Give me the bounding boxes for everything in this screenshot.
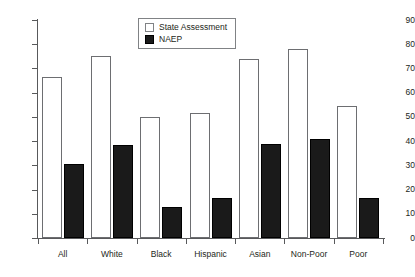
y-axis-tick-label: 50 [389, 112, 415, 121]
x-axis-label-black: Black [137, 249, 186, 259]
bar-poor-naep [359, 198, 379, 238]
bar-hispanic-state-assessment [190, 113, 210, 238]
y-axis-tick [32, 117, 37, 118]
legend-item-state: State Assessment [145, 23, 227, 32]
x-axis-tick [383, 239, 384, 244]
y-axis-tick-label: 70 [389, 64, 415, 73]
bar-chart: 0102030405060708090 AllWhiteBlackHispani… [0, 0, 415, 277]
y-axis-tick-label: 40 [389, 137, 415, 146]
y-axis-tick-label: 90 [389, 16, 415, 25]
x-axis-tick [284, 239, 285, 244]
legend-label: State Assessment [159, 23, 227, 32]
y-axis-tick-label: 80 [389, 40, 415, 49]
legend-label: NAEP [159, 35, 182, 44]
x-axis-label-all: All [38, 249, 87, 259]
x-axis-tick [186, 239, 187, 244]
plot-area [38, 20, 383, 238]
y-axis-tick-label: 60 [389, 88, 415, 97]
bar-non-poor-naep [310, 139, 330, 238]
x-axis-label-poor: Poor [334, 249, 383, 259]
y-axis-tick [32, 68, 37, 69]
y-axis-tick [32, 141, 37, 142]
bar-asian-state-assessment [239, 59, 259, 238]
y-axis-tick-label: 30 [389, 161, 415, 170]
y-axis-tick [32, 190, 37, 191]
x-axis-label-asian: Asian [235, 249, 284, 259]
legend-item-naep: NAEP [145, 35, 227, 44]
legend-swatch-naep-icon [145, 35, 154, 44]
x-axis-tick [87, 239, 88, 244]
bar-black-naep [162, 207, 182, 238]
bar-asian-naep [261, 144, 281, 238]
y-axis-tick [32, 44, 37, 45]
bar-all-state-assessment [42, 77, 62, 238]
bar-poor-state-assessment [337, 106, 357, 238]
y-axis-tick [32, 165, 37, 166]
chart-legend: State AssessmentNAEP [138, 18, 236, 49]
x-axis-label-non-poor: Non-Poor [284, 249, 333, 259]
y-axis-tick-label: 20 [389, 185, 415, 194]
x-axis-tick [137, 239, 138, 244]
x-axis-label-hispanic: Hispanic [186, 249, 235, 259]
legend-swatch-state-icon [145, 23, 154, 32]
bar-black-state-assessment [140, 117, 160, 238]
bar-all-naep [64, 164, 84, 238]
bar-white-state-assessment [91, 56, 111, 238]
x-axis-tick [235, 239, 236, 244]
y-axis-tick [32, 214, 37, 215]
x-axis-tick [38, 239, 39, 244]
y-axis-tick-label: 0 [389, 234, 415, 243]
y-axis-tick [32, 20, 37, 21]
x-axis-label-white: White [87, 249, 136, 259]
y-axis-tick-label: 10 [389, 209, 415, 218]
y-axis-tick [32, 93, 37, 94]
x-axis-tick [334, 239, 335, 244]
bar-white-naep [113, 145, 133, 238]
bar-hispanic-naep [212, 198, 232, 238]
bar-non-poor-state-assessment [288, 49, 308, 238]
